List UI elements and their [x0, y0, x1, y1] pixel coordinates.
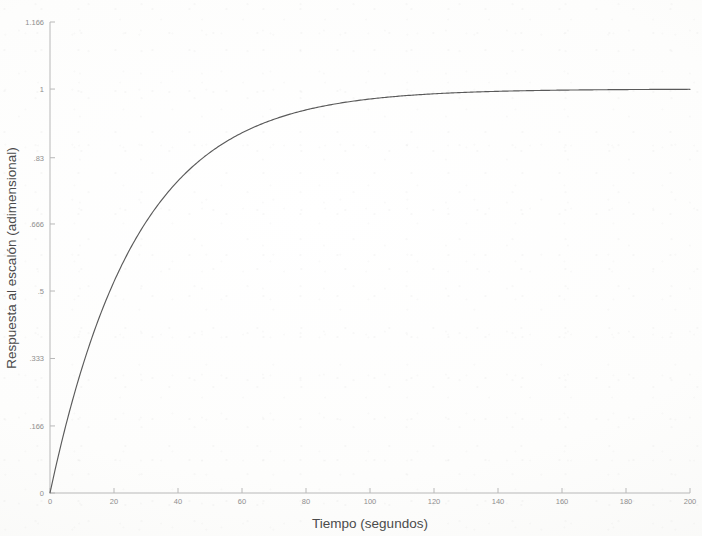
axis-lines [50, 22, 690, 493]
y-axis-title: Respuesta al escalón (adimensional) [4, 147, 19, 368]
x-tick-label: 60 [238, 497, 246, 506]
y-tick-label: .666 [29, 220, 44, 229]
x-tick-label: 200 [684, 497, 697, 506]
y-tick-label: .166 [29, 422, 44, 431]
x-tick-label: 160 [556, 497, 569, 506]
x-tick-label: 40 [174, 497, 182, 506]
y-tick-group: 0.166.333.5.666.8311.166 [25, 18, 55, 498]
x-tick-group: 020406080100120140160180200 [48, 488, 696, 506]
x-tick-label: 20 [110, 497, 118, 506]
y-tick-label: .333 [29, 354, 44, 363]
y-tick-label: 0 [40, 489, 44, 498]
x-tick-label: 120 [428, 497, 441, 506]
x-tick-label: 100 [364, 497, 377, 506]
x-tick-label: 0 [48, 497, 52, 506]
plot-svg: 0.166.333.5.666.8311.166 020406080100120… [0, 0, 702, 536]
y-tick-label: .5 [38, 287, 44, 296]
y-tick-label: .83 [34, 154, 44, 163]
x-tick-label: 80 [302, 497, 310, 506]
x-axis-title: Tiempo (segundos) [312, 516, 428, 531]
y-tick-label: 1 [40, 85, 44, 94]
x-tick-label: 140 [492, 497, 505, 506]
step-response-curve [50, 89, 690, 493]
y-tick-label: 1.166 [25, 18, 44, 27]
x-tick-label: 180 [620, 497, 633, 506]
step-response-figure: 0.166.333.5.666.8311.166 020406080100120… [0, 0, 702, 536]
